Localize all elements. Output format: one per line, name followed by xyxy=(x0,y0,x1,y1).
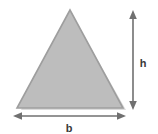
triangle-dimension-diagram: h b xyxy=(0,0,158,134)
height-arrow-head-bottom xyxy=(129,101,137,110)
diagram-canvas: h b xyxy=(0,0,158,134)
base-label: b xyxy=(66,122,73,134)
height-arrow-head-top xyxy=(129,10,137,19)
base-arrow-head-right xyxy=(117,112,126,120)
height-arrow xyxy=(129,10,137,110)
triangle-shape xyxy=(17,10,123,108)
base-arrow-head-left xyxy=(13,112,22,120)
height-label: h xyxy=(140,57,147,69)
base-arrow xyxy=(13,112,126,120)
